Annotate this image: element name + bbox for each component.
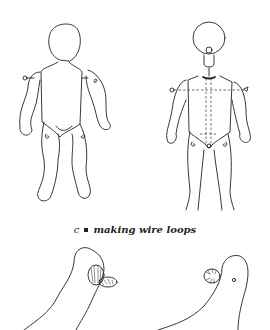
caption-letter: c [74, 224, 80, 235]
doll-body-left [20, 24, 111, 201]
figure-illustration [0, 0, 270, 330]
limb-loop-left [24, 248, 117, 330]
bullet-icon [84, 228, 88, 232]
caption-text: making wire loops [93, 224, 196, 235]
figure-caption: cmaking wire loops [0, 224, 270, 235]
limb-loop-right [158, 256, 248, 330]
doll-body-right [167, 22, 251, 210]
